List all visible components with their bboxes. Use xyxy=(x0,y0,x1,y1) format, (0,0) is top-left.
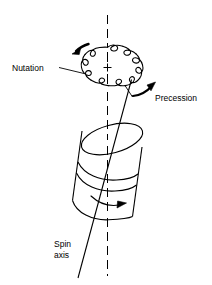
spin-axis-line xyxy=(78,80,132,279)
cylinder-top-face xyxy=(78,117,146,160)
precession-label: Precession xyxy=(155,93,197,103)
spin-direction-arrow xyxy=(91,196,127,208)
cylinder-groove-lower xyxy=(77,173,137,191)
precession-direction-arrow xyxy=(133,82,156,96)
nutation-loop-path xyxy=(81,45,143,86)
center-cross-mark xyxy=(104,64,112,72)
spin-axis-label-line1: Spin xyxy=(54,239,71,249)
spin-axis-label-line2: axis xyxy=(54,250,69,260)
cylinder-right-wall xyxy=(133,147,143,217)
spinning-top-cylinder xyxy=(73,117,147,220)
diagram-canvas: Nutation Precession Spin axis xyxy=(0,0,212,285)
gyroscope-diagram: Nutation Precession Spin axis xyxy=(0,0,212,285)
nutation-leader-line xyxy=(59,68,84,74)
nutation-label: Nutation xyxy=(12,63,44,73)
